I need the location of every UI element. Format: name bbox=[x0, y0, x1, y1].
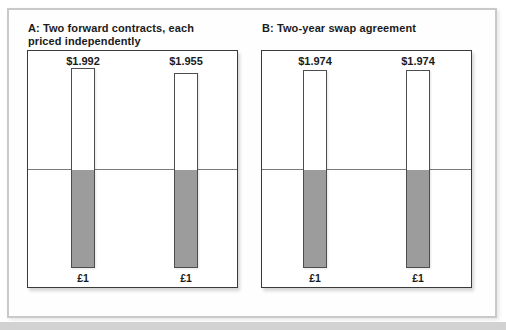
panel-a-bar1-dollar-label: $1.992 bbox=[48, 55, 118, 67]
panel-b-bar1 bbox=[303, 70, 327, 268]
panel-b-bar2-pound-segment bbox=[407, 170, 429, 267]
panel-b-bar1-pound-segment bbox=[304, 170, 326, 267]
panel-b-bar2-dollar-segment bbox=[407, 71, 429, 170]
panel-b-bar1-dollar-label: $1.974 bbox=[280, 55, 350, 67]
page-bottom-strip bbox=[0, 322, 506, 330]
panel-a-bar2-pound-segment bbox=[175, 170, 197, 267]
panel-a-bar1 bbox=[71, 68, 95, 268]
panel-a-bar2-pound-label: £1 bbox=[151, 272, 221, 284]
panel-a-bar2-dollar-label: $1.955 bbox=[151, 55, 221, 67]
panel-b-bar2-dollar-label: $1.974 bbox=[383, 55, 453, 67]
panel-b-bar1-pound-label: £1 bbox=[280, 272, 350, 284]
panel-a-box: $1.992 $1.955 £1 £1 bbox=[27, 50, 238, 288]
panel-b-bar1-dollar-segment bbox=[304, 71, 326, 170]
panel-a-title: A: Two forward contracts, each priced in… bbox=[28, 22, 226, 47]
panel-b-box: $1.974 $1.974 £1 £1 bbox=[261, 50, 472, 288]
panel-b-title: B: Two-year swap agreement bbox=[262, 22, 460, 35]
panel-a-bar1-pound-label: £1 bbox=[48, 272, 118, 284]
figure-frame: A: Two forward contracts, each priced in… bbox=[7, 8, 497, 318]
panel-b-exchange-midline bbox=[262, 169, 471, 170]
panel-b-bar2 bbox=[406, 70, 430, 268]
panel-a-bar1-dollar-segment bbox=[72, 69, 94, 170]
panel-a-bar1-pound-segment bbox=[72, 170, 94, 267]
panel-a-bar2 bbox=[174, 73, 198, 268]
panel-a-bar2-dollar-segment bbox=[175, 74, 197, 170]
panel-a-exchange-midline bbox=[28, 169, 237, 170]
panel-b-bar2-pound-label: £1 bbox=[383, 272, 453, 284]
